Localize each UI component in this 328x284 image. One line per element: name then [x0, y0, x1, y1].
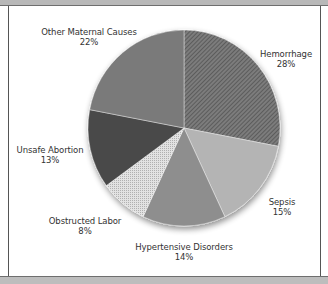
label-pct: 15%	[269, 207, 296, 217]
label-obstructed-labor: Obstructed Labor 8%	[49, 216, 122, 236]
label-pct: 28%	[260, 59, 312, 69]
label-hemorrhage: Hemorrhage 28%	[260, 49, 312, 69]
label-name: Hypertensive Disorders	[135, 242, 232, 252]
label-name: Obstructed Labor	[49, 216, 122, 226]
label-other-maternal-causes: Other Maternal Causes 22%	[41, 27, 136, 47]
label-name: Sepsis	[269, 197, 296, 207]
label-pct: 14%	[135, 252, 232, 262]
pie-slice-hemorrhage	[184, 30, 280, 146]
label-pct: 22%	[41, 37, 136, 47]
label-name: Hemorrhage	[260, 49, 312, 59]
label-pct: 13%	[17, 155, 84, 165]
label-sepsis: Sepsis 15%	[269, 197, 296, 217]
label-hypertensive-disorders: Hypertensive Disorders 14%	[135, 242, 232, 262]
label-name: Unsafe Abortion	[17, 145, 84, 155]
label-name: Other Maternal Causes	[41, 27, 136, 37]
label-pct: 8%	[49, 226, 122, 236]
label-unsafe-abortion: Unsafe Abortion 13%	[17, 145, 84, 165]
